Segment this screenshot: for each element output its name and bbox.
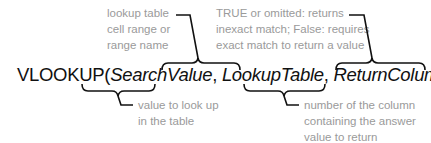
brace-lookup-table — [162, 58, 240, 70]
leader-lookup-table — [176, 15, 198, 58]
leader-range-lookup — [349, 15, 372, 58]
leader-return-column — [284, 96, 299, 105]
brace-search-value — [82, 84, 155, 96]
brace-return-column — [244, 84, 325, 96]
connector-lines — [0, 0, 431, 143]
brace-range-lookup — [336, 58, 425, 70]
leader-search-value — [118, 96, 133, 105]
